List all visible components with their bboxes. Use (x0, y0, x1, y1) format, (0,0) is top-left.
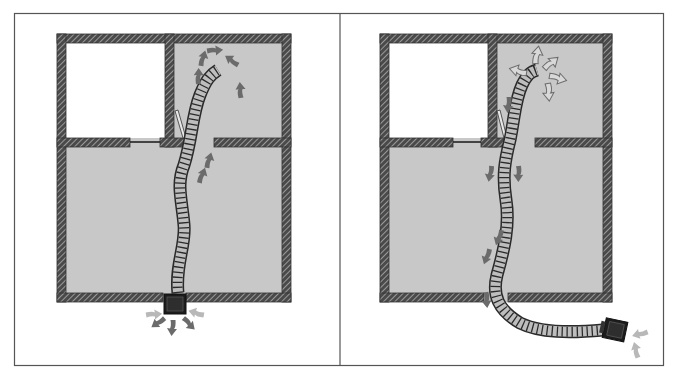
wall-bottom-right (508, 293, 612, 302)
panel-left (57, 34, 291, 336)
arrow-down-icon (167, 320, 177, 336)
wall-right (603, 34, 612, 302)
wall-room-divider (165, 34, 174, 147)
wall-mid-right (214, 138, 291, 147)
vacuum-unit-left (164, 294, 186, 314)
wall-right (282, 34, 291, 302)
wall-left (57, 34, 66, 302)
wall-bottom-right (186, 293, 291, 302)
wall-mid-left (57, 138, 130, 147)
wall-mid-left (380, 138, 453, 147)
arrow-out-icon (180, 315, 199, 333)
wall-left (380, 34, 389, 302)
panel-right (380, 34, 649, 359)
wall-bottom-left (380, 293, 484, 302)
wall-bottom-left (57, 293, 163, 302)
wall-mid-center (160, 138, 185, 147)
wall-room-divider (488, 34, 497, 147)
arrow-in-icon (187, 306, 204, 319)
arrow-in-icon (629, 341, 644, 359)
wall-mid-right (535, 138, 612, 147)
white-room (66, 43, 165, 138)
white-room (389, 43, 488, 138)
vacuum-unit-right (598, 317, 628, 342)
arrow-in-icon (631, 326, 649, 341)
diagram-canvas (0, 0, 677, 376)
airflow-arrows-unit-right (629, 326, 649, 359)
